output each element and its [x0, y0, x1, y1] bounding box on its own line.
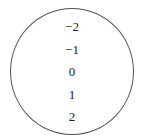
- set-element: −1: [0, 43, 144, 57]
- set-element: −2: [0, 20, 144, 34]
- set-element: 0: [0, 65, 144, 79]
- set-element: 2: [0, 110, 144, 124]
- set-element: 1: [0, 88, 144, 102]
